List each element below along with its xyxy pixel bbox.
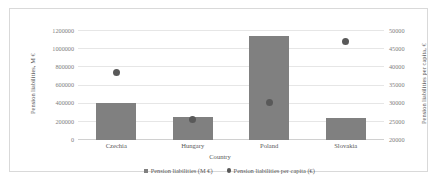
y-axis-right-tick-label: 45000	[389, 46, 404, 52]
data-point-poland	[266, 99, 273, 106]
y-axis-left-tick-label: 400000	[55, 100, 74, 106]
gridline	[78, 48, 384, 49]
x-axis-label-poland: Poland	[231, 142, 308, 149]
plot-area	[78, 31, 384, 140]
x-axis-label-czechia: Czechia	[78, 142, 155, 149]
chart-legend: Pension liabilities (M €)Pension liabili…	[10, 167, 439, 174]
legend-label: Pension liabilities per capita (€)	[234, 167, 315, 174]
gridline	[78, 85, 384, 86]
legend-square-icon	[144, 169, 148, 173]
y-axis-right-tick-label: 20000	[389, 137, 404, 143]
chart-frame: Pension liabilities, M € Pension liabili…	[9, 8, 428, 172]
y-axis-right-ticks: 20000250003000035000400004500050000	[389, 31, 429, 140]
bar-slovakia	[326, 118, 366, 140]
legend-item-1[interactable]: Pension liabilities (M €)	[144, 167, 212, 174]
legend-label: Pension liabilities (M €)	[151, 167, 213, 174]
data-point-hungary	[189, 116, 196, 123]
data-point-czechia	[113, 69, 120, 76]
y-axis-right-tick-label: 40000	[389, 64, 404, 70]
data-point-slovakia	[342, 38, 349, 45]
y-axis-right-tick-label: 35000	[389, 82, 404, 88]
y-axis-right-tick-label: 30000	[389, 100, 404, 106]
y-axis-left-tick-label: 1200000	[52, 28, 74, 34]
y-axis-right-tick-label: 25000	[389, 119, 404, 125]
bar-poland	[249, 36, 289, 140]
x-axis-title: Country	[70, 153, 370, 160]
legend-item-2[interactable]: Pension liabilities per capita (€)	[227, 167, 315, 174]
y-axis-left-tick-label: 0	[71, 137, 74, 143]
y-axis-left-tick-label: 1000000	[52, 46, 74, 52]
y-axis-left-tick-label: 600000	[55, 82, 74, 88]
gridline	[78, 30, 384, 31]
x-axis-label-hungary: Hungary	[155, 142, 232, 149]
legend-dot-icon	[227, 168, 232, 173]
y-axis-left-tick-label: 800000	[55, 64, 74, 70]
y-axis-left-tick-label: 200000	[55, 119, 74, 125]
x-axis-label-slovakia: Slovakia	[308, 142, 385, 149]
y-axis-left-ticks: 020000040000060000080000010000001200000	[28, 31, 74, 140]
bar-czechia	[96, 103, 136, 140]
y-axis-right-tick-label: 50000	[389, 28, 404, 34]
gridline	[78, 66, 384, 67]
